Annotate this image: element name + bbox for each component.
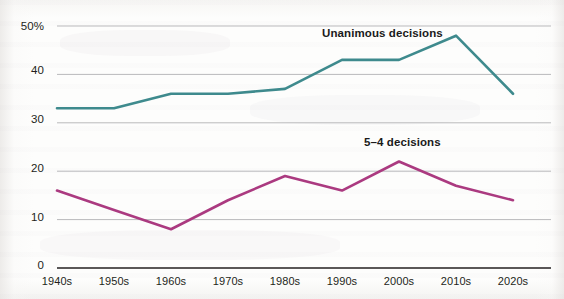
chart-page: 50% 40 30 20 10 0 1940s 1950s 1960s 1970… bbox=[0, 0, 564, 299]
series-unanimous-decisions bbox=[57, 36, 513, 109]
line-chart-svg bbox=[0, 0, 564, 299]
